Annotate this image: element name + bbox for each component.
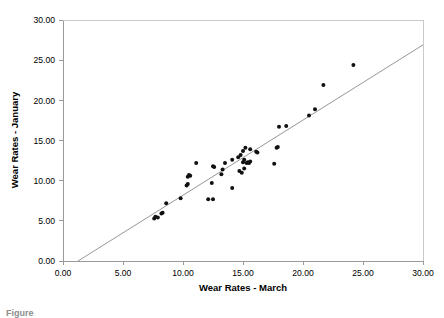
scatter-point [276,145,280,149]
scatter-point [243,146,247,150]
x-tick-label: 5.00 [115,268,132,278]
scatter-point [248,159,252,163]
scatter-point [156,216,160,220]
y-tick-label: 25.00 [33,55,55,65]
scatter-point [206,197,210,201]
scatter-point [211,197,215,201]
scatter-point [161,211,165,215]
x-tick-label: 25.00 [352,268,374,278]
scatter-point [284,124,288,128]
scatter-point [194,161,198,165]
scatter-point [212,165,216,169]
scatter-point [186,182,190,186]
x-tick-label: 10.00 [172,268,194,278]
y-axis-title: Wear Rates - January [9,91,20,188]
scatter-point [223,161,227,165]
y-tick-label: 30.00 [33,15,55,25]
scatter-point [210,181,214,185]
figure-container: 0.005.0010.0015.0020.0025.0030.00 0.005.… [0,0,444,318]
y-tick-label: 5.00 [38,216,55,226]
scatter-point [179,196,183,200]
x-tick-label: 30.00 [412,268,434,278]
scatter-point [321,83,325,87]
x-axis-title: Wear Rates - March [199,282,287,293]
y-tick-label: 0.00 [38,256,55,266]
scatter-point [255,151,259,155]
figure-caption: Figure [6,308,34,318]
scatter-point [242,158,246,162]
scatter-point [241,149,245,153]
scatter-point [272,162,276,166]
scatter-chart: 0.005.0010.0015.0020.0025.0030.00 0.005.… [0,0,444,318]
scatter-point [219,172,223,176]
scatter-point [230,158,234,162]
scatter-point [164,201,168,205]
x-tick-label: 15.00 [232,268,254,278]
scatter-point [313,107,317,111]
y-tick-label: 10.00 [33,176,55,186]
scatter-point [221,167,225,171]
x-tick-label: 20.00 [292,268,314,278]
scatter-point [307,114,311,118]
y-tick-label: 15.00 [33,136,55,146]
scatter-point [242,167,246,171]
scatter-point [351,63,355,67]
x-tick-label: 0.00 [55,268,72,278]
scatter-point [188,174,192,178]
scatter-point [239,153,243,157]
scatter-point [277,125,281,129]
y-tick-label: 20.00 [33,96,55,106]
scatter-point [240,171,244,175]
scatter-point [248,147,252,151]
scatter-point [230,186,234,190]
